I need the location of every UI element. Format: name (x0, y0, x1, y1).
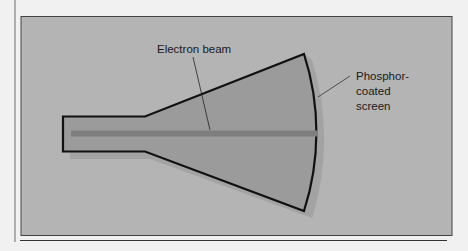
crt-diagram: Electron beam Phosphor- coated screen (0, 0, 468, 251)
screen-label-line1: Phosphor- (356, 70, 409, 82)
screen-label-line2: coated (356, 85, 391, 97)
electron-beam (71, 131, 318, 137)
electron-beam-label: Electron beam (157, 43, 231, 55)
screen-label-line3: screen (356, 100, 391, 112)
